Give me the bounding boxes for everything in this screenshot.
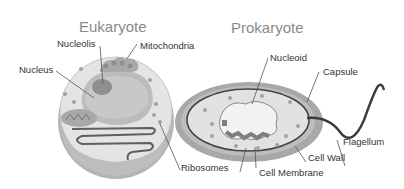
label-nucleus: Nucleus — [19, 64, 53, 75]
label-ribosomes: Ribosomes — [181, 162, 229, 173]
nucleolus — [92, 79, 112, 95]
label-nucleolis: Nucleolis — [57, 38, 96, 49]
eukaryote-title: Eukaryote — [79, 18, 147, 35]
eukaryote-cell — [56, 44, 180, 179]
label-mitochondria: Mitochondria — [140, 40, 194, 51]
label-flagellum: Flagellum — [343, 136, 384, 147]
label-cell-wall: Cell Wall — [308, 152, 345, 163]
nucleoid — [219, 101, 277, 139]
cell-diagram: Eukaryote Prokaryote Nucleolis Mitochond… — [0, 0, 404, 189]
prokaryote-title: Prokaryote — [231, 19, 304, 36]
mitochondrion-left — [61, 109, 97, 127]
label-capsule: Capsule — [323, 66, 358, 77]
label-nucleoid: Nucleoid — [270, 52, 307, 63]
label-cell-membrane: Cell Membrane — [259, 167, 323, 178]
